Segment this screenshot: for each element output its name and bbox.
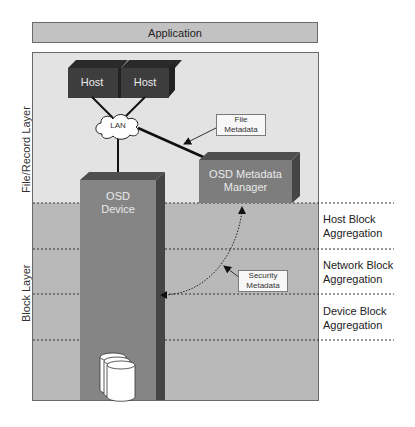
device-block-aggregation-label: Device Block Aggregation	[323, 304, 387, 332]
file-metadata-line2: Metadata	[217, 125, 265, 135]
security-metadata-line2: Metadata	[239, 281, 287, 291]
network-block-aggregation-line1: Network Block	[323, 258, 393, 272]
host-1-label: Host	[68, 76, 116, 89]
osd-device-label-line1: OSD	[80, 190, 156, 203]
file-metadata-callout: File Metadata	[216, 114, 266, 136]
osd-metadata-manager-line1: OSD Metadata	[199, 168, 292, 181]
osd-metadata-manager-line2: Manager	[199, 181, 292, 194]
host-block-aggregation-line1: Host Block	[323, 212, 382, 226]
host-block-aggregation-line2: Aggregation	[323, 226, 382, 240]
device-block-aggregation-line1: Device Block	[323, 304, 387, 318]
network-block-aggregation-label: Network Block Aggregation	[323, 258, 393, 286]
host-2-label: Host	[121, 76, 169, 89]
file-record-layer-label: File/Record Layer	[20, 106, 32, 193]
osd-device-label-line2: Device	[80, 203, 156, 216]
disk-stack-icon	[100, 353, 135, 401]
security-metadata-callout: Security Metadata	[238, 270, 288, 292]
security-metadata-line1: Security	[239, 271, 287, 281]
host-block-aggregation-label: Host Block Aggregation	[323, 212, 382, 240]
device-block-aggregation-line2: Aggregation	[323, 318, 387, 332]
lan-label: LAN	[103, 121, 133, 130]
file-metadata-line1: File	[217, 115, 265, 125]
block-layer-label: Block Layer	[20, 265, 32, 322]
osd-metadata-manager-label: OSD Metadata Manager	[199, 168, 292, 194]
osd-device-label: OSD Device	[80, 190, 156, 216]
network-block-aggregation-line2: Aggregation	[323, 272, 393, 286]
